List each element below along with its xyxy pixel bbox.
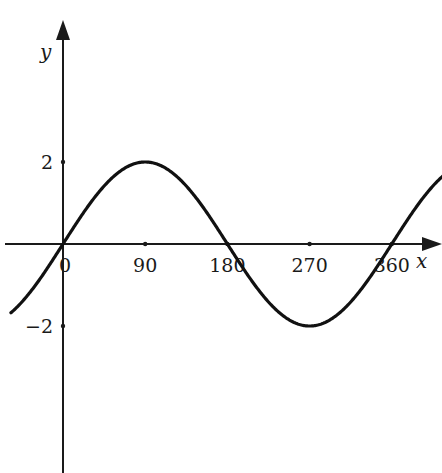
y-axis-label: y (39, 40, 52, 64)
x-axis-label: x (416, 249, 427, 273)
y-tick-mark (61, 324, 65, 328)
x-tick-mark (307, 242, 311, 246)
x-tick-label: 270 (291, 254, 327, 276)
y-tick-label: 2 (41, 151, 53, 173)
x-tick-mark (143, 242, 147, 246)
x-tick-group: 090180270360 (59, 242, 410, 276)
x-tick-label: 0 (59, 254, 71, 276)
x-tick-label: 90 (133, 254, 157, 276)
y-tick-label: −2 (25, 315, 53, 337)
sine-graph: y x 090180270360 2−2 (0, 0, 442, 473)
y-axis-arrow-icon (56, 20, 70, 40)
y-tick-mark (61, 160, 65, 164)
